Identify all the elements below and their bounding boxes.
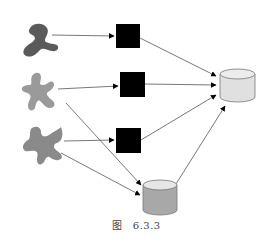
edge-blob3-cylinder-gray <box>61 153 140 195</box>
edge-square2-cylinder-light <box>145 84 216 85</box>
edge-blob3-square3 <box>64 140 114 141</box>
cylinder-gray <box>143 180 177 215</box>
cylinder-light <box>220 69 255 102</box>
blob-2 <box>22 73 55 111</box>
edges <box>52 35 225 195</box>
cylinder-light-top <box>220 69 255 79</box>
edge-blob2-square2 <box>58 86 118 89</box>
caption-number: 6.3.3 <box>133 220 161 231</box>
edge-square3-cylinder-light <box>141 95 216 140</box>
edge-square1-cylinder-light <box>140 38 216 76</box>
blob-1 <box>23 24 58 57</box>
edge-cylinder-gray-cylinder-light <box>176 106 225 184</box>
blob-3 <box>23 127 62 165</box>
square-1 <box>116 24 140 48</box>
edge-blob1-square1 <box>52 35 114 36</box>
square-2 <box>120 72 145 97</box>
caption-prefix: 图 <box>112 220 123 231</box>
diagram-canvas <box>0 0 273 238</box>
cylinder-gray-top <box>143 180 177 190</box>
square-3 <box>116 128 141 153</box>
figure-caption: 图6.3.3 <box>0 217 273 232</box>
